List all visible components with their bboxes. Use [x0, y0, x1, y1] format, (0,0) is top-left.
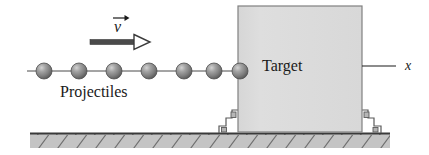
- projectile-ball: [232, 63, 248, 79]
- target-right-foot: [362, 110, 381, 133]
- velocity-arrow-shaft: [90, 40, 135, 45]
- projectile-ball: [106, 63, 122, 79]
- ground-hatch-band: [30, 133, 390, 148]
- velocity-label: v: [114, 19, 121, 35]
- projectile-ball: [36, 63, 52, 79]
- velocity-arrow: [90, 35, 150, 50]
- projectile-target-figure: v Projectiles Target x: [0, 0, 429, 155]
- left-foot-bolt-upper: [231, 112, 236, 118]
- right-foot-bolt-lower: [373, 128, 378, 133]
- target-left-foot: [219, 110, 238, 133]
- x-axis-label: x: [405, 59, 411, 73]
- projectile-ball: [71, 63, 87, 79]
- target-label: Target: [262, 58, 302, 74]
- projectile-ball: [206, 63, 222, 79]
- projectiles-label: Projectiles: [60, 84, 128, 100]
- projectile-ball: [141, 63, 157, 79]
- projectile-ball: [176, 63, 192, 79]
- figure-canvas: [0, 0, 429, 155]
- ground-group: [30, 133, 390, 148]
- left-foot-bolt-lower: [222, 128, 227, 133]
- velocity-arrow-head: [134, 35, 150, 50]
- right-foot-bolt-upper: [364, 112, 369, 118]
